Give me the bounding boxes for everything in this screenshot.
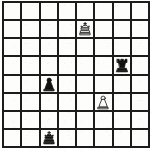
board-square-g5[interactable] xyxy=(114,57,130,73)
board-square-e8[interactable] xyxy=(77,3,93,19)
board-square-b8[interactable] xyxy=(22,3,38,19)
board-square-d7[interactable] xyxy=(59,21,75,37)
board-square-b1[interactable] xyxy=(22,130,38,146)
board-square-a1[interactable] xyxy=(4,130,20,146)
board-square-a5[interactable] xyxy=(4,57,20,73)
board-square-h8[interactable] xyxy=(132,3,148,19)
board-square-d2[interactable] xyxy=(59,112,75,128)
board-square-f3[interactable] xyxy=(95,94,111,110)
board-square-a7[interactable] xyxy=(4,21,20,37)
board-square-a2[interactable] xyxy=(4,112,20,128)
board-square-g1[interactable] xyxy=(114,130,130,146)
board-square-b7[interactable] xyxy=(22,21,38,37)
board-square-h7[interactable] xyxy=(132,21,148,37)
chessboard[interactable] xyxy=(2,1,150,148)
board-square-a6[interactable] xyxy=(4,39,20,55)
board-square-e5[interactable] xyxy=(77,57,93,73)
board-square-e6[interactable] xyxy=(77,39,93,55)
chess-diagram xyxy=(0,0,155,151)
board-square-d8[interactable] xyxy=(59,3,75,19)
board-square-h3[interactable] xyxy=(132,94,148,110)
board-square-d3[interactable] xyxy=(59,94,75,110)
board-square-d6[interactable] xyxy=(59,39,75,55)
black-rook-piece[interactable] xyxy=(114,57,130,73)
board-square-g8[interactable] xyxy=(114,3,130,19)
board-square-c8[interactable] xyxy=(41,3,57,19)
black-pawn-piece[interactable] xyxy=(41,76,57,92)
board-square-b2[interactable] xyxy=(22,112,38,128)
board-square-f4[interactable] xyxy=(95,76,111,92)
board-square-c6[interactable] xyxy=(41,39,57,55)
board-square-c7[interactable] xyxy=(41,21,57,37)
board-square-d5[interactable] xyxy=(59,57,75,73)
board-square-c1[interactable] xyxy=(41,130,57,146)
black-king-piece[interactable] xyxy=(41,130,57,146)
board-square-e7[interactable] xyxy=(77,21,93,37)
board-square-a3[interactable] xyxy=(4,94,20,110)
board-square-e1[interactable] xyxy=(77,130,93,146)
white-pawn-piece[interactable] xyxy=(95,94,111,110)
board-square-h4[interactable] xyxy=(132,76,148,92)
board-square-b6[interactable] xyxy=(22,39,38,55)
board-square-c5[interactable] xyxy=(41,57,57,73)
board-square-g3[interactable] xyxy=(114,94,130,110)
board-square-h1[interactable] xyxy=(132,130,148,146)
board-square-f1[interactable] xyxy=(95,130,111,146)
board-square-b5[interactable] xyxy=(22,57,38,73)
board-square-c4[interactable] xyxy=(41,76,57,92)
board-square-f7[interactable] xyxy=(95,21,111,37)
board-square-a8[interactable] xyxy=(4,3,20,19)
board-square-c2[interactable] xyxy=(41,112,57,128)
white-king-piece[interactable] xyxy=(77,21,93,37)
board-square-d4[interactable] xyxy=(59,76,75,92)
board-square-f5[interactable] xyxy=(95,57,111,73)
board-square-e3[interactable] xyxy=(77,94,93,110)
board-square-b3[interactable] xyxy=(22,94,38,110)
board-square-e2[interactable] xyxy=(77,112,93,128)
board-square-c3[interactable] xyxy=(41,94,57,110)
board-square-d1[interactable] xyxy=(59,130,75,146)
board-square-f6[interactable] xyxy=(95,39,111,55)
board-square-f8[interactable] xyxy=(95,3,111,19)
board-square-f2[interactable] xyxy=(95,112,111,128)
board-square-g7[interactable] xyxy=(114,21,130,37)
board-square-g2[interactable] xyxy=(114,112,130,128)
board-square-g6[interactable] xyxy=(114,39,130,55)
board-square-b4[interactable] xyxy=(22,76,38,92)
board-square-h2[interactable] xyxy=(132,112,148,128)
board-square-g4[interactable] xyxy=(114,76,130,92)
board-square-h6[interactable] xyxy=(132,39,148,55)
board-square-a4[interactable] xyxy=(4,76,20,92)
board-square-h5[interactable] xyxy=(132,57,148,73)
board-square-e4[interactable] xyxy=(77,76,93,92)
